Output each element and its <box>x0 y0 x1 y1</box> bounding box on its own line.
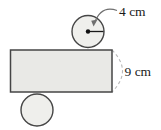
center-dot <box>86 29 90 33</box>
diagram-svg: 4 cm 9 cm <box>0 0 161 130</box>
radius-label: 4 cm <box>119 4 146 19</box>
rectangle-lateral-surface <box>11 50 113 92</box>
height-dashed-arc <box>112 50 123 92</box>
cylinder-net-diagram: 4 cm 9 cm <box>0 0 161 130</box>
bottom-circle <box>21 94 53 126</box>
height-label: 9 cm <box>125 64 152 79</box>
